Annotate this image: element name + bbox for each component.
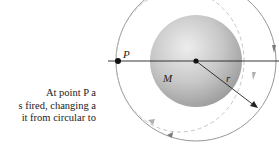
label-r: r bbox=[226, 72, 231, 84]
label-m: M bbox=[162, 72, 173, 84]
radius-arrowhead-icon bbox=[250, 101, 258, 108]
center-point bbox=[193, 58, 198, 63]
orbit-diagram: P M r bbox=[0, 0, 279, 145]
label-p: P bbox=[122, 48, 130, 60]
dashed-orbit-arrow-right-icon bbox=[252, 72, 256, 80]
point-p-marker bbox=[115, 58, 121, 64]
